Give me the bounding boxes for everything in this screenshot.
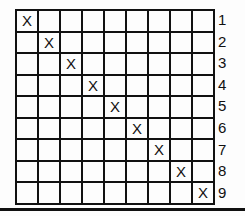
row-label: 9 bbox=[218, 182, 226, 204]
grid-cell-marked: X bbox=[38, 32, 60, 54]
grid-cell bbox=[148, 118, 170, 140]
grid-cell bbox=[170, 139, 192, 161]
grid-cell bbox=[38, 53, 60, 75]
row-label: 5 bbox=[218, 95, 226, 117]
row-labels: 123456789 bbox=[218, 9, 226, 203]
grid-cell bbox=[38, 161, 60, 183]
grid-cell bbox=[104, 161, 126, 183]
grid-cell bbox=[170, 53, 192, 75]
grid-cell bbox=[60, 182, 82, 204]
grid-cell bbox=[60, 75, 82, 97]
grid-cell bbox=[126, 75, 148, 97]
grid-cell bbox=[82, 10, 104, 32]
grid-row: X bbox=[16, 139, 214, 161]
grid-cell bbox=[126, 182, 148, 204]
row-label: 4 bbox=[218, 74, 226, 96]
grid-cell bbox=[60, 32, 82, 54]
grid-cell bbox=[170, 118, 192, 140]
grid-cell bbox=[148, 161, 170, 183]
grid-cell bbox=[16, 161, 38, 183]
grid-cell bbox=[60, 139, 82, 161]
grid-cell bbox=[60, 161, 82, 183]
grid-cell-marked: X bbox=[126, 118, 148, 140]
diagonal-grid: XXXXXXXXX bbox=[15, 9, 215, 205]
grid-cell bbox=[126, 53, 148, 75]
grid-cell bbox=[104, 75, 126, 97]
grid-cell bbox=[192, 75, 214, 97]
grid-row: X bbox=[16, 182, 214, 204]
grid-cell bbox=[192, 32, 214, 54]
row-label: 2 bbox=[218, 31, 226, 53]
grid-cell bbox=[104, 53, 126, 75]
grid-cell-marked: X bbox=[148, 139, 170, 161]
grid-row: X bbox=[16, 10, 214, 32]
grid-cell bbox=[38, 96, 60, 118]
bottom-rule bbox=[0, 208, 245, 211]
grid-cell bbox=[126, 96, 148, 118]
grid-cell bbox=[104, 10, 126, 32]
grid-cell-marked: X bbox=[170, 161, 192, 183]
grid-cell bbox=[38, 118, 60, 140]
grid-row: X bbox=[16, 118, 214, 140]
grid-cell bbox=[192, 161, 214, 183]
grid-cell bbox=[82, 96, 104, 118]
grid-cell-marked: X bbox=[192, 182, 214, 204]
grid-cell bbox=[192, 10, 214, 32]
grid-cell bbox=[104, 182, 126, 204]
grid-cell bbox=[38, 182, 60, 204]
grid-row: X bbox=[16, 32, 214, 54]
grid-cell bbox=[148, 96, 170, 118]
grid-row: X bbox=[16, 53, 214, 75]
row-label: 1 bbox=[218, 9, 226, 31]
grid-cell bbox=[82, 118, 104, 140]
row-label: 6 bbox=[218, 117, 226, 139]
grid-cell bbox=[16, 182, 38, 204]
grid-cell bbox=[126, 10, 148, 32]
grid-cell bbox=[16, 118, 38, 140]
grid-cell bbox=[192, 53, 214, 75]
row-label: 7 bbox=[218, 139, 226, 161]
grid-cell-marked: X bbox=[82, 75, 104, 97]
grid-cell bbox=[170, 10, 192, 32]
grid-cell bbox=[148, 182, 170, 204]
grid-cell-marked: X bbox=[16, 10, 38, 32]
grid-cell bbox=[16, 96, 38, 118]
grid-cell bbox=[126, 139, 148, 161]
grid-cell bbox=[148, 10, 170, 32]
grid-row: X bbox=[16, 161, 214, 183]
grid-cell bbox=[170, 96, 192, 118]
grid-cell bbox=[82, 139, 104, 161]
grid-cell bbox=[82, 53, 104, 75]
grid-cell bbox=[16, 139, 38, 161]
grid-cell bbox=[170, 32, 192, 54]
grid-cell bbox=[38, 10, 60, 32]
row-label: 3 bbox=[218, 52, 226, 74]
grid-cell bbox=[192, 139, 214, 161]
grid-cell bbox=[148, 53, 170, 75]
grid-cell bbox=[148, 32, 170, 54]
grid-cell bbox=[16, 32, 38, 54]
grid-cell bbox=[148, 75, 170, 97]
grid-cell bbox=[60, 118, 82, 140]
grid-cell-marked: X bbox=[104, 96, 126, 118]
grid-cell bbox=[170, 182, 192, 204]
grid-cell bbox=[82, 161, 104, 183]
grid-cell bbox=[16, 53, 38, 75]
grid-cell-marked: X bbox=[60, 53, 82, 75]
grid-row: X bbox=[16, 96, 214, 118]
grid-cell bbox=[192, 96, 214, 118]
grid-cell bbox=[104, 32, 126, 54]
grid-cell bbox=[82, 32, 104, 54]
grid-cell bbox=[60, 96, 82, 118]
grid-cell bbox=[38, 75, 60, 97]
grid-cell bbox=[104, 118, 126, 140]
grid-cell bbox=[38, 139, 60, 161]
grid-cell bbox=[126, 161, 148, 183]
grid-cell bbox=[104, 139, 126, 161]
grid-cell bbox=[60, 10, 82, 32]
grid-cell bbox=[126, 32, 148, 54]
grid-cell bbox=[16, 75, 38, 97]
grid-cell bbox=[192, 118, 214, 140]
grid-cell bbox=[82, 182, 104, 204]
grid-cell bbox=[170, 75, 192, 97]
